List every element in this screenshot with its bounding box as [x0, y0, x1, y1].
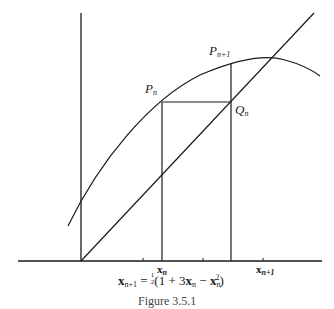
- formula-body-close: ): [219, 273, 223, 288]
- label-qn: Qn: [235, 103, 248, 118]
- figure-caption: Figure 3.5.1: [138, 294, 196, 309]
- label-base: Q: [235, 102, 244, 117]
- formula-minus: −: [196, 273, 210, 288]
- formula-eq: =: [137, 273, 151, 288]
- formula-body-open: (1 + 3: [154, 273, 185, 288]
- label-pn: Pn: [145, 82, 157, 97]
- label-sub: n: [153, 88, 157, 97]
- iteration-curve: [68, 58, 320, 226]
- label-base: P: [145, 81, 153, 96]
- label-sub: n+1: [217, 50, 230, 59]
- identity-line: [81, 13, 314, 261]
- label-base: P: [209, 43, 217, 58]
- label-sub: n: [244, 109, 248, 118]
- label-xn1: xn+1: [256, 264, 275, 277]
- formula-lhs-sub: n+1: [125, 280, 138, 289]
- label-pn1: Pn+1: [209, 44, 230, 59]
- label-sub: n+1: [262, 268, 275, 277]
- recurrence-formula: xn+1 = 12(1 + 3xn − xn2): [118, 272, 224, 289]
